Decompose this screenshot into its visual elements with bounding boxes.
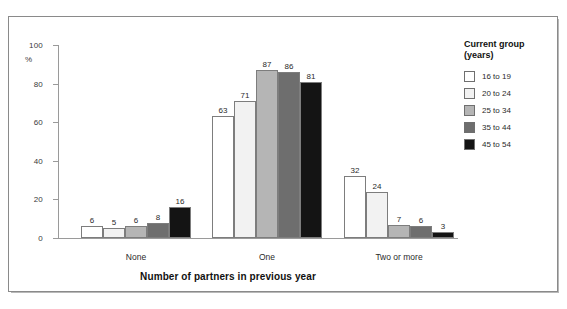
bar[interactable]: 5 [103, 228, 125, 238]
y-axis-tick [53, 161, 58, 162]
legend-item-label: 16 to 19 [482, 72, 511, 81]
bar[interactable]: 6 [81, 226, 103, 238]
bar[interactable]: 71 [234, 101, 256, 238]
bar-value-label: 71 [241, 91, 250, 100]
bar-value-label: 16 [176, 197, 185, 206]
x-axis-title: Number of partners in previous year [58, 271, 398, 282]
legend-item-label: 25 to 34 [482, 106, 511, 115]
bar-value-label: 8 [156, 213, 160, 222]
legend-swatch [464, 139, 475, 150]
y-axis-tick [53, 122, 58, 123]
bar[interactable]: 6 [125, 226, 147, 238]
y-axis-line [58, 45, 59, 238]
legend-item-label: 20 to 24 [482, 89, 511, 98]
plot-area: 656816None6371878681One3224763Two or mor… [58, 45, 398, 239]
bar-value-label: 87 [263, 60, 272, 69]
x-axis-category-label: One [259, 252, 275, 262]
y-axis-tick [53, 199, 58, 200]
bar-value-label: 81 [307, 72, 316, 81]
legend-rows: 16 to 1920 to 2425 to 3435 to 4445 to 54 [464, 68, 556, 153]
x-axis-line [58, 238, 458, 239]
legend-item[interactable]: 16 to 19 [464, 68, 556, 85]
y-axis-unit-label: % [25, 55, 32, 64]
legend-item[interactable]: 45 to 54 [464, 136, 556, 153]
y-axis-tick-label: 60 [34, 118, 43, 127]
legend-item-label: 35 to 44 [482, 123, 511, 132]
bar-value-label: 7 [397, 215, 401, 224]
y-axis-tick [53, 45, 58, 46]
bar[interactable]: 32 [344, 176, 366, 238]
bar[interactable]: 24 [366, 192, 388, 238]
legend-swatch [464, 105, 475, 116]
x-axis-category-label: None [126, 252, 146, 262]
legend-swatch [464, 122, 475, 133]
bar-value-label: 86 [285, 62, 294, 71]
bar-value-label: 63 [219, 106, 228, 115]
y-axis-labels: 020406080100 [1, 45, 43, 239]
bar-value-label: 24 [373, 182, 382, 191]
bar-value-label: 6 [90, 216, 94, 225]
bar-value-label: 32 [351, 166, 360, 175]
bar[interactable]: 86 [278, 72, 300, 238]
bar[interactable]: 8 [147, 223, 169, 238]
y-axis-tick-label: 80 [34, 79, 43, 88]
bar-value-label: 3 [441, 222, 445, 231]
y-axis-tick [53, 84, 58, 85]
bar[interactable]: 7 [388, 225, 410, 239]
x-axis-category-label: Two or more [375, 252, 422, 262]
bar-group: 3224763Two or more [344, 45, 454, 238]
bar-value-label: 6 [134, 216, 138, 225]
legend-item[interactable]: 25 to 34 [464, 102, 556, 119]
chart-figure: 020406080100 % 656816None6371878681One32… [8, 16, 558, 292]
bar-value-label: 5 [112, 218, 116, 227]
legend-swatch [464, 71, 475, 82]
bar[interactable]: 87 [256, 70, 278, 238]
bar[interactable]: 16 [169, 207, 191, 238]
y-axis-tick-label: 20 [34, 195, 43, 204]
y-axis-tick-label: 40 [34, 156, 43, 165]
bar[interactable]: 81 [300, 82, 322, 238]
legend-title: Current group (years) [464, 39, 556, 61]
bar-group: 6371878681One [212, 45, 322, 238]
legend: Current group (years) 16 to 1920 to 2425… [464, 39, 556, 153]
legend-item[interactable]: 20 to 24 [464, 85, 556, 102]
bar-group: 656816None [81, 45, 191, 238]
legend-swatch [464, 88, 475, 99]
bar[interactable]: 3 [432, 232, 454, 238]
legend-item-label: 45 to 54 [482, 140, 511, 149]
legend-item[interactable]: 35 to 44 [464, 119, 556, 136]
y-axis-tick-label: 0 [38, 234, 43, 243]
bar-value-label: 6 [419, 216, 423, 225]
bar[interactable]: 6 [410, 226, 432, 238]
y-axis-tick [53, 238, 58, 239]
bar[interactable]: 63 [212, 116, 234, 238]
y-axis-tick-label: 100 [29, 41, 43, 50]
